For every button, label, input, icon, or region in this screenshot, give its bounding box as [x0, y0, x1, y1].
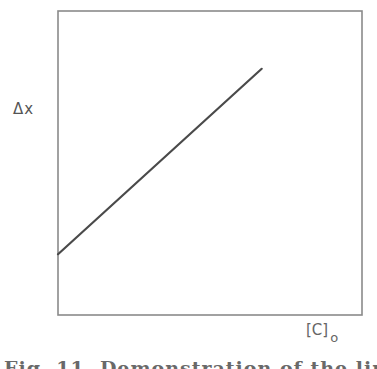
data-line: [58, 69, 262, 254]
figure: Δx [C]o Fig. 11. Demonstration of the li…: [0, 0, 377, 369]
figure-caption: Fig. 11. Demonstration of the linear dep…: [4, 357, 377, 369]
plot-area: [0, 0, 377, 369]
x-axis-label-subscript: o: [330, 330, 338, 345]
x-axis-label: [C]o: [306, 321, 338, 339]
plot-frame: [58, 11, 362, 315]
x-axis-label-main: [C]: [306, 321, 328, 339]
y-axis-label-text: Δx: [13, 100, 34, 118]
y-axis-label: Δx: [13, 100, 34, 118]
